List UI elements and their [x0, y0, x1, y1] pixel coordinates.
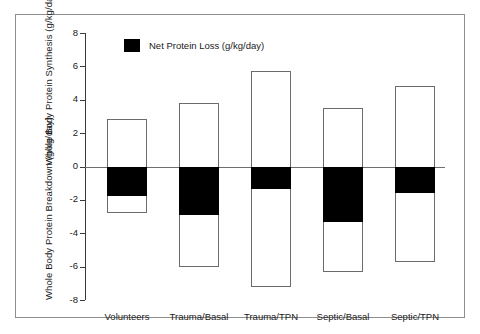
- plot-area: 86420-2-4-6-8 VolunteersTrauma/BasalTrau…: [85, 33, 445, 300]
- legend: Net Protein Loss (g/kg/day): [124, 39, 264, 52]
- net-loss-segment-trauma-basal: [179, 167, 219, 215]
- y-tick-neg6: -6: [85, 267, 90, 268]
- y-tick-label: -2: [70, 193, 78, 204]
- net-loss-segment-volunteers: [107, 167, 147, 196]
- y-tick-label: -6: [70, 260, 78, 271]
- y-tick-label: 0: [73, 160, 78, 171]
- category-label-septic-tpn: Septic/TPN: [391, 311, 439, 322]
- y-tick-8: 8: [85, 33, 90, 34]
- chart-figure: Whole Body Protein Synthesis (g/kg/day) …: [0, 0, 480, 334]
- y-tick-neg8: -8: [85, 300, 90, 301]
- y-tick-4: 4: [85, 100, 90, 101]
- y-tick-mark: [80, 33, 85, 34]
- y-tick-mark: [80, 300, 85, 301]
- y-tick-label: 2: [73, 127, 78, 138]
- y-tick-label: 4: [73, 93, 78, 104]
- category-label-septic-basal: Septic/Basal: [317, 311, 370, 322]
- legend-swatch-net-protein-loss: [124, 39, 140, 52]
- y-tick-neg2: -2: [85, 200, 90, 201]
- y-tick-label: 8: [73, 27, 78, 38]
- category-label-trauma-basal: Trauma/Basal: [170, 311, 229, 322]
- y-tick-0: 0: [85, 167, 90, 168]
- y-axis-title-breakdown: Whole Body Protein Breakdown (g/kg/day): [44, 170, 55, 300]
- y-tick-mark: [80, 267, 85, 268]
- y-tick-label: -4: [70, 227, 78, 238]
- net-loss-segment-septic-tpn: [395, 167, 435, 194]
- net-loss-segment-septic-basal: [323, 167, 363, 222]
- y-tick-mark: [80, 100, 85, 101]
- y-tick-mark: [80, 167, 85, 168]
- y-tick-mark: [80, 133, 85, 134]
- y-tick-label: 6: [73, 60, 78, 71]
- y-tick-mark: [80, 66, 85, 67]
- y-tick-mark: [80, 233, 85, 234]
- y-tick-neg4: -4: [85, 233, 90, 234]
- net-loss-segment-trauma-tpn: [251, 167, 291, 190]
- y-tick-mark: [80, 200, 85, 201]
- y-tick-6: 6: [85, 66, 90, 67]
- y-tick-label: -8: [70, 294, 78, 305]
- category-label-volunteers: Volunteers: [105, 311, 150, 322]
- legend-label-net-protein-loss: Net Protein Loss (g/kg/day): [149, 40, 264, 51]
- y-tick-2: 2: [85, 133, 90, 134]
- category-label-trauma-tpn: Trauma/TPN: [244, 311, 298, 322]
